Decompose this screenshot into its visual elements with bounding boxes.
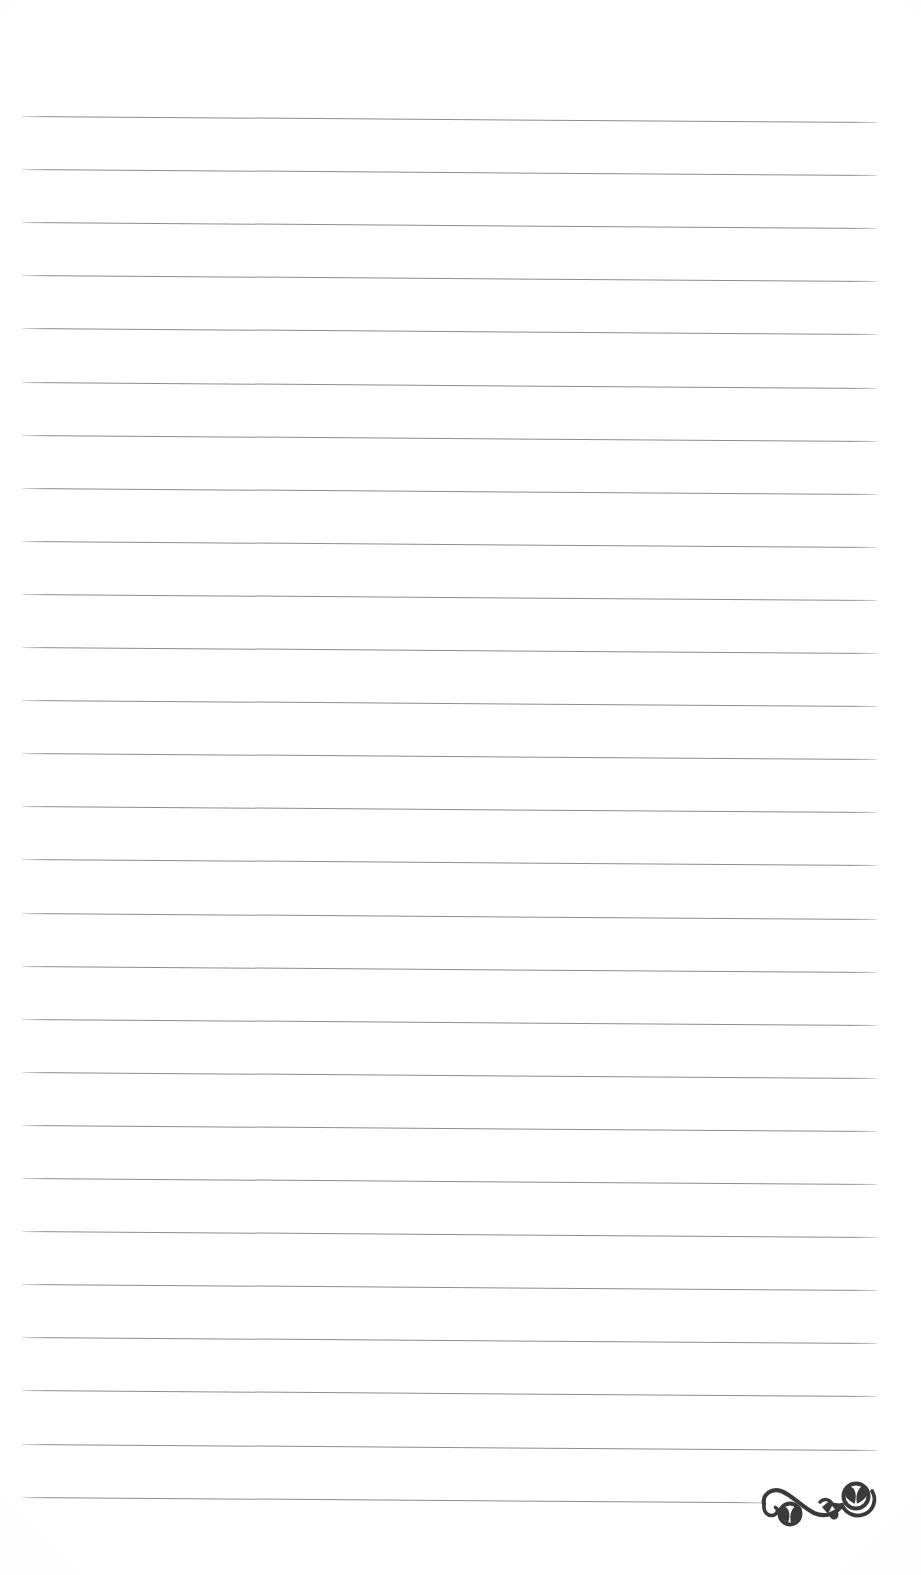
ruled-line bbox=[22, 328, 877, 335]
ruled-line bbox=[22, 594, 877, 601]
ruled-line bbox=[22, 1178, 877, 1185]
ruled-line bbox=[22, 1019, 877, 1026]
decorative-flourish-ornament bbox=[758, 1474, 888, 1532]
ruled-line bbox=[22, 647, 877, 654]
ruled-line bbox=[22, 700, 877, 707]
flourish-strokes bbox=[764, 1484, 875, 1525]
ruled-line bbox=[22, 1072, 877, 1079]
ruled-line bbox=[22, 859, 877, 866]
ruled-line bbox=[22, 1444, 877, 1451]
ruled-line bbox=[22, 1284, 877, 1291]
ruled-line bbox=[22, 222, 877, 229]
ruled-line bbox=[22, 382, 877, 389]
ruled-line bbox=[22, 753, 877, 760]
ruled-line bbox=[22, 435, 877, 442]
ruled-line bbox=[22, 1390, 877, 1397]
ruled-line bbox=[22, 1337, 877, 1344]
notebook-page bbox=[0, 0, 921, 1575]
ruled-line-layer bbox=[0, 0, 921, 1575]
ruled-line bbox=[22, 966, 877, 973]
ruled-line bbox=[22, 806, 877, 813]
ruled-line bbox=[22, 169, 877, 176]
ruled-line bbox=[22, 275, 877, 282]
ruled-line bbox=[22, 1125, 877, 1132]
ruled-line bbox=[22, 116, 877, 123]
ruled-line bbox=[22, 541, 877, 548]
ruled-line bbox=[22, 1497, 762, 1503]
ruled-line bbox=[22, 1231, 877, 1238]
ruled-line bbox=[22, 488, 877, 495]
ruled-line bbox=[22, 913, 877, 920]
